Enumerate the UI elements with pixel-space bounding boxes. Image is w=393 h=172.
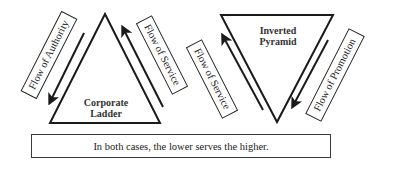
inverted-pyramid-title: Inverted Pyramid xyxy=(248,25,308,47)
corporate-ladder-title-line1: Corporate xyxy=(76,97,136,108)
inverted-pyramid-title-line1: Inverted xyxy=(248,25,308,36)
caption-box: In both cases, the lower serves the high… xyxy=(31,134,331,158)
caption-text: In both cases, the lower serves the high… xyxy=(93,141,268,152)
inverted-pyramid-title-line2: Pyramid xyxy=(248,36,308,47)
corporate-ladder-title-line2: Ladder xyxy=(76,108,136,119)
corporate-ladder-title: Corporate Ladder xyxy=(76,97,136,119)
